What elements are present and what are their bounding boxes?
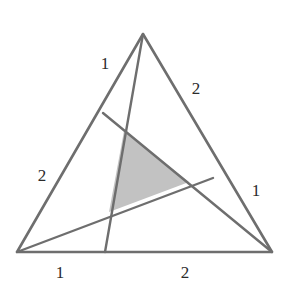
triangle-diagram-svg [0, 0, 286, 293]
shaded-inner-triangle [109, 131, 189, 212]
geometry-figure: 1 2 2 1 1 2 [0, 0, 286, 293]
label-upper-left-1: 1 [101, 55, 110, 72]
label-upper-right-2: 2 [192, 80, 201, 97]
label-lower-right-1: 1 [252, 182, 261, 199]
label-lower-left-2: 2 [38, 167, 47, 184]
label-bottom-2: 2 [181, 264, 190, 281]
label-bottom-1: 1 [56, 264, 65, 281]
